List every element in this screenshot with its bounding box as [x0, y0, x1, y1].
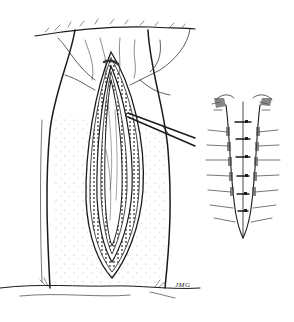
inset-figure [206, 95, 280, 238]
surgical-illustration [0, 0, 294, 322]
artist-signature: JMG [175, 281, 191, 289]
main-figure [0, 19, 200, 298]
